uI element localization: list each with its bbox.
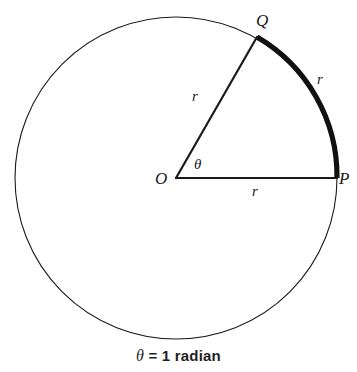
label-point-o: O [155,170,167,187]
radian-diagram-svg [0,0,357,372]
caption-text: = 1 radian [144,347,221,364]
label-arc-length-r: r [317,72,323,87]
radius-segment-oq [176,37,257,178]
label-point-p: P [339,170,349,187]
caption-theta-symbol: θ [136,347,144,364]
label-radius-oq: r [192,89,198,104]
figure-caption: θ = 1 radian [0,347,357,365]
label-angle-theta: θ [194,157,201,172]
label-point-q: Q [256,12,268,29]
label-radius-op: r [252,184,258,199]
highlighted-arc-qp [257,37,337,178]
radian-diagram-figure: O Q P r r r θ θ = 1 radian [0,0,357,372]
diagram-geometry [15,17,337,339]
